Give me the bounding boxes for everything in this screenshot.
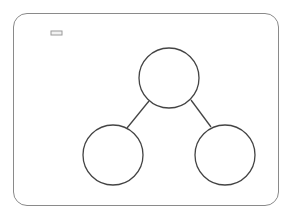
cube-stack-nub [51,31,62,35]
bond-line-left [127,101,149,128]
bond-line-right [191,100,211,127]
whole-circle[interactable] [139,48,199,108]
number-bond-diagram [0,0,294,218]
part-circle-right[interactable] [195,125,255,185]
part-circle-left[interactable] [83,125,143,185]
cube-stack [51,31,62,35]
